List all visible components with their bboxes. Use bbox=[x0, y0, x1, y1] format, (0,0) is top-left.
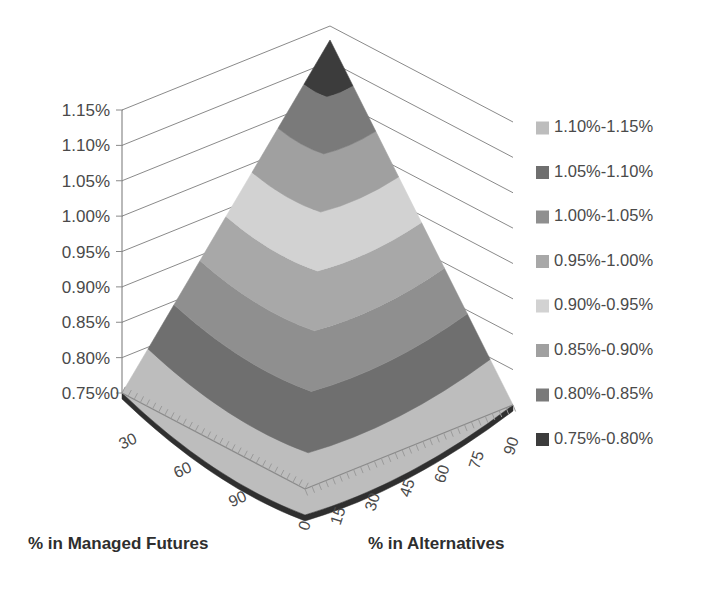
legend-item[interactable]: 1.05%-1.10% bbox=[536, 162, 653, 180]
z-tick-label: 1.05% bbox=[62, 172, 110, 191]
legend-swatch bbox=[536, 389, 549, 402]
z-tick-label: 0.85% bbox=[62, 313, 110, 332]
z-tick-label: 1.15% bbox=[62, 101, 110, 120]
z-tick-labels: 1.15%1.10%1.05%1.00%0.95%0.90%0.85%0.80%… bbox=[62, 101, 110, 403]
legend-label: 0.75%-0.80% bbox=[554, 429, 653, 447]
legend-item[interactable]: 0.85%-0.90% bbox=[536, 340, 653, 358]
legend-label: 1.00%-1.05% bbox=[554, 206, 653, 224]
legend-swatch bbox=[536, 122, 549, 135]
legend-item[interactable]: 0.75%-0.80% bbox=[536, 429, 653, 447]
x-axis-title: % in Alternatives bbox=[368, 534, 504, 553]
x-tick-label: 75 bbox=[466, 449, 488, 471]
z-axis bbox=[116, 110, 123, 393]
legend-label: 1.05%-1.10% bbox=[554, 162, 653, 180]
z-tick-label: 1.00% bbox=[62, 207, 110, 226]
z-tick-label: 0.90% bbox=[62, 278, 110, 297]
legend-swatch bbox=[536, 255, 549, 268]
y-tick-label: 60 bbox=[171, 458, 194, 481]
legend-item[interactable]: 0.95%-1.00% bbox=[536, 251, 653, 269]
surface-chart: 1.15%1.10%1.05%1.00%0.95%0.90%0.85%0.80%… bbox=[0, 0, 719, 600]
z-tick-label: 0.95% bbox=[62, 243, 110, 262]
legend-item[interactable]: 0.90%-0.95% bbox=[536, 295, 653, 313]
legend-label: 0.95%-1.00% bbox=[554, 251, 653, 269]
legend-swatch bbox=[536, 166, 549, 179]
chart-canvas: 1.15%1.10%1.05%1.00%0.95%0.90%0.85%0.80%… bbox=[0, 0, 719, 600]
x-tick-label: 90 bbox=[500, 435, 522, 457]
legend-label: 0.85%-0.90% bbox=[554, 340, 653, 358]
legend-swatch bbox=[536, 211, 549, 224]
x-tick-label: 60 bbox=[431, 463, 453, 485]
legend-swatch bbox=[536, 300, 549, 313]
z-tick-label: 0.75% bbox=[62, 384, 110, 403]
legend-item[interactable]: 1.00%-1.05% bbox=[536, 206, 653, 224]
legend-label: 1.10%-1.15% bbox=[554, 117, 653, 135]
y-axis-title: % in Managed Futures bbox=[28, 534, 208, 553]
surface-bands bbox=[122, 40, 513, 521]
y-axis-zero-label: 0 bbox=[110, 385, 119, 402]
legend-swatch bbox=[536, 433, 549, 446]
legend-label: 0.80%-0.85% bbox=[554, 384, 653, 402]
legend-swatch bbox=[536, 344, 549, 357]
legend-item[interactable]: 1.10%-1.15% bbox=[536, 117, 653, 135]
z-tick-label: 0.80% bbox=[62, 349, 110, 368]
legend-item[interactable]: 0.80%-0.85% bbox=[536, 384, 653, 402]
legend-label: 0.90%-0.95% bbox=[554, 295, 653, 313]
z-tick-label: 1.10% bbox=[62, 136, 110, 155]
legend: 1.10%-1.15%1.05%-1.10%1.00%-1.05%0.95%-1… bbox=[536, 117, 653, 447]
y-tick-label: 30 bbox=[116, 430, 139, 453]
